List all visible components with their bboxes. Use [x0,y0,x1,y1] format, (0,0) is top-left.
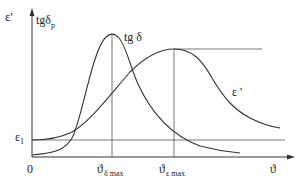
eps-axis-label: ε' [5,10,13,23]
theta-emax-sub: ε max [166,169,185,178]
theta-emax-text: ϑ [159,162,165,176]
theta-dmax-sub: δ max [104,169,124,178]
tg-delta-curve [32,34,240,155]
eps1-label: ε1 [15,131,24,143]
x-axis-arrow-icon [287,155,295,160]
theta-axis-label: ϑ [270,163,276,175]
eps1-sub: 1 [20,137,24,146]
y-axis-arrow-icon [30,8,35,16]
eps-prime-curve [32,49,280,140]
tg-delta-curve-label: tg δ [124,31,142,43]
theta-dmax-label: ϑδ max [97,163,124,175]
theta-dmax-text: ϑ [97,162,103,176]
tg-axis-label: tgδp [36,14,55,26]
tg-axis-text: tgδ [36,13,51,27]
diagram-canvas [0,0,307,181]
eps-curve-label: ε ' [232,86,242,98]
diagram: ε' tgδp tg δ ε ' ε1 0 ϑδ max ϑε max ϑ [0,0,307,181]
tg-axis-sub: p [51,21,55,30]
theta-emax-label: ϑε max [159,163,185,175]
origin-label: 0 [27,163,33,175]
